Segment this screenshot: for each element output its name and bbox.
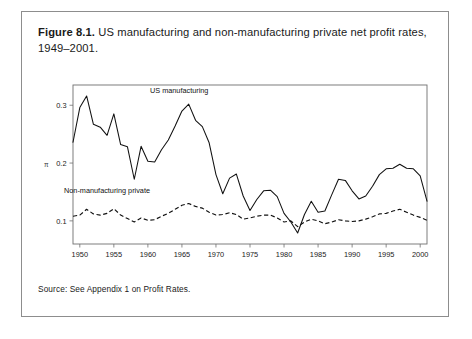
x-axis-ticks: 1950195519601965197019751980198519901995… [72, 244, 429, 259]
x-tick-label: 1960 [140, 250, 156, 259]
x-tick-label: 1965 [174, 250, 190, 259]
figure-label: Figure 8.1. [38, 26, 95, 38]
profit-rates-line-chart: 1950195519601965197019751980198519901995… [22, 67, 450, 272]
series-annotation-label: Non-manufacturing private [64, 186, 150, 195]
source-note: Source: See Appendix 1 on Profit Rates. [38, 284, 190, 294]
y-axis-ticks: 0.10.20.3 [56, 101, 73, 226]
x-tick-label: 1985 [310, 250, 326, 259]
x-tick-label: 1995 [378, 250, 394, 259]
figure-panel: Figure 8.1. US manufacturing and non-man… [21, 11, 449, 317]
y-tick-label: 0.3 [56, 101, 66, 110]
x-tick-label: 1975 [242, 250, 258, 259]
x-tick-label: 1990 [344, 250, 360, 259]
figure-caption-text: US manufacturing and non-manufacturing p… [38, 26, 427, 54]
series-annotation-label: US manufacturing [150, 86, 208, 95]
x-tick-label: 2000 [412, 250, 428, 259]
x-tick-label: 1980 [276, 250, 292, 259]
y-axis-title: π [44, 161, 49, 168]
x-tick-label: 1955 [106, 250, 122, 259]
chart-plot-area: 1950195519601965197019751980198519901995… [22, 67, 450, 272]
x-tick-label: 1970 [208, 250, 224, 259]
y-tick-label: 0.2 [56, 159, 66, 168]
y-tick-label: 0.1 [56, 217, 66, 226]
x-tick-label: 1950 [72, 250, 88, 259]
figure-caption: Figure 8.1. US manufacturing and non-man… [38, 25, 430, 56]
plot-frame [73, 85, 427, 244]
